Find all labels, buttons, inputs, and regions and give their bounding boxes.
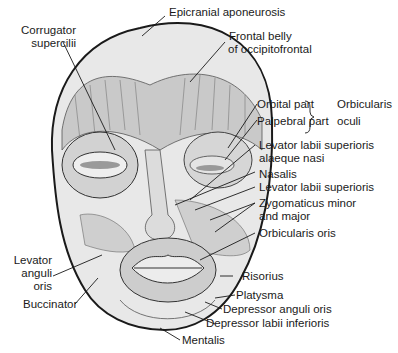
- label-buccinator: Buccinator: [23, 298, 77, 311]
- label-levator-anguli-oris-1: Levator: [4, 254, 52, 267]
- label-corrugator-supercilii-2: supercilii: [10, 37, 76, 50]
- label-levator-anguli-oris-3: oris: [4, 280, 52, 293]
- label-frontal-belly-1: Frontal belly: [229, 30, 292, 43]
- label-levator-labii-alaeque-nasi-1: Levator labii superioris: [259, 139, 374, 152]
- label-zygomaticus-1: Zygomaticus minor: [259, 197, 356, 210]
- label-mentalis: Mentalis: [182, 334, 225, 347]
- label-levator-labii-superioris: Levator labii superioris: [259, 181, 374, 194]
- label-frontal-belly-2: of occipitofrontal: [228, 43, 312, 56]
- label-levator-labii-alaeque-nasi-2: alaeque nasi: [259, 152, 324, 165]
- label-orbicularis-oculi-1: Orbicularis: [337, 98, 392, 111]
- label-orbital-part: Orbital part: [257, 98, 314, 111]
- label-epicranial-aponeurosis: Epicranial aponeurosis: [169, 6, 285, 19]
- label-levator-anguli-oris-2: anguli: [4, 267, 52, 280]
- label-corrugator-supercilii-1: Corrugator: [10, 24, 76, 37]
- label-nasalis: Nasalis: [259, 168, 297, 181]
- label-orbicularis-oculi-2: oculi: [337, 115, 361, 128]
- label-palpebral-part: Palpebral part: [257, 115, 329, 128]
- label-depressor-anguli-oris: Depressor anguli oris: [223, 303, 332, 316]
- label-zygomaticus-2: and major: [259, 210, 310, 223]
- label-orbicularis-oris: Orbicularis oris: [259, 227, 336, 240]
- label-risorius: Risorius: [242, 270, 284, 283]
- label-depressor-labii-inferioris: Depressor labii inferioris: [206, 317, 329, 330]
- label-platysma: Platysma: [236, 289, 283, 302]
